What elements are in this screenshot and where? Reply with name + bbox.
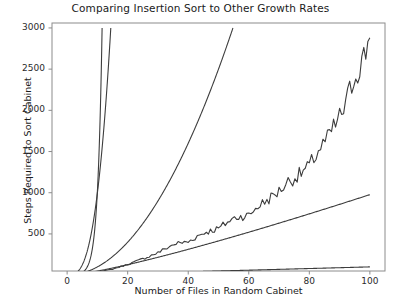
series-line: [67, 28, 102, 275]
y-tick-label: 2000: [11, 104, 45, 114]
y-tick-label: 500: [11, 228, 45, 238]
series-line: [67, 195, 370, 275]
x-tick-label: 60: [234, 276, 264, 286]
x-tick-label: 20: [113, 276, 143, 286]
y-tick-label: 2500: [11, 63, 45, 73]
x-axis-label: Number of Files in Random Cabinet: [52, 285, 385, 296]
plot-area: [0, 0, 401, 303]
series-line: [67, 28, 233, 275]
series-line: [67, 38, 370, 275]
y-tick-label: 3000: [11, 22, 45, 32]
y-tick-label: 1000: [11, 187, 45, 197]
x-tick-label: 100: [355, 276, 385, 286]
chart-figure: Comparing Insertion Sort to Other Growth…: [0, 0, 401, 303]
series-line: [67, 28, 111, 275]
y-tick-label: 1500: [11, 146, 45, 156]
x-tick-label: 80: [294, 276, 324, 286]
x-tick-label: 40: [173, 276, 203, 286]
x-tick-label: 0: [52, 276, 82, 286]
